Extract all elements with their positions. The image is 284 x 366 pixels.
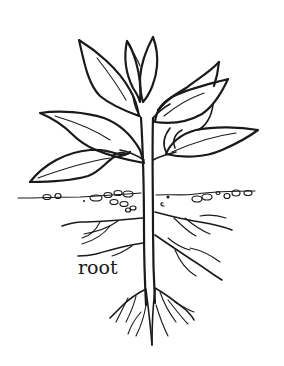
roots: [62, 212, 232, 345]
leaves: [30, 37, 258, 182]
root-label: root: [78, 258, 118, 277]
soil-line: [18, 190, 255, 212]
leaf-upper-right: [155, 62, 228, 123]
leaf-right: [164, 104, 258, 157]
plant-diagram: [0, 0, 284, 366]
leaf-lower-left: [30, 150, 130, 182]
pebbles-left: [43, 191, 136, 213]
stem: [120, 96, 176, 305]
leaf-left: [40, 112, 144, 163]
